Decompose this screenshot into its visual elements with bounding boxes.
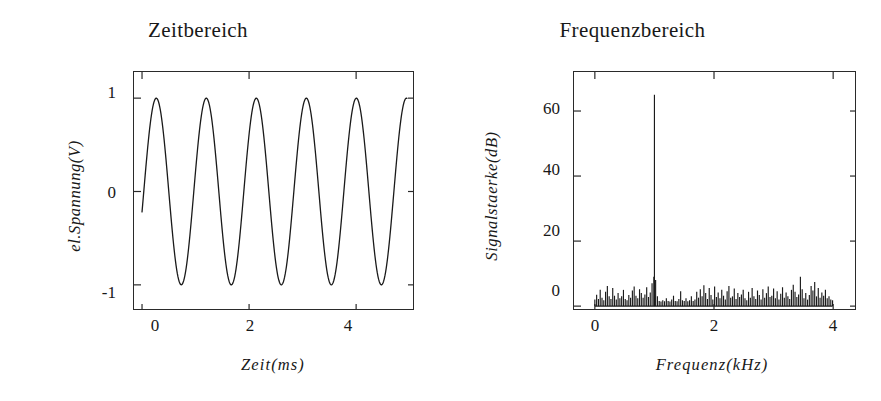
frequency-domain-spectrum-svg [574,72,856,310]
time-domain-plot-area [133,71,414,310]
time-domain-y-tick-1: 1 [78,83,116,103]
time-domain-x-tick-4: 4 [328,316,368,336]
time-domain-waveform-svg [134,72,414,310]
frequency-domain-x-axis-label: Frequenz(kHz) [597,355,827,375]
time-domain-x-tick-0: 0 [135,316,175,336]
figure-two-panel-signal-analysis: Zeitbereich el.Spannung(V) 1 0 -1 0 2 4 … [0,0,881,401]
frequency-domain-y-tick-0: 0 [512,281,560,301]
panel-time-domain: Zeitbereich el.Spannung(V) 1 0 -1 0 2 4 … [0,0,460,401]
frequency-domain-plot-area [573,71,856,310]
time-domain-x-tick-2: 2 [230,316,270,336]
frequency-domain-y-tick-20: 20 [512,221,560,241]
frequency-domain-x-tick-4: 4 [813,316,853,336]
time-domain-title: Zeitbereich [0,18,428,43]
frequency-domain-y-tick-60: 60 [512,99,560,119]
time-domain-y-tick-minus-1: -1 [70,283,116,303]
frequency-domain-y-tick-40: 40 [512,160,560,180]
time-domain-y-tick-0: 0 [78,183,116,203]
time-domain-x-axis-label: Zeit(ms) [173,355,373,375]
frequency-domain-x-tick-2: 2 [694,316,734,336]
frequency-domain-x-tick-0: 0 [575,316,615,336]
panel-frequency-domain: Frequenzbereich Signalstaerke(dB) 60 40 … [440,0,881,401]
frequency-domain-title: Frequenzbereich [412,18,853,43]
frequency-domain-y-axis-label: Signalstaerke(dB) [482,96,502,296]
